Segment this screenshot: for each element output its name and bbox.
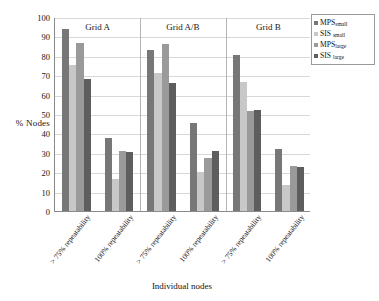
panel-divider: [226, 18, 227, 211]
y-tick-label: 60: [24, 92, 50, 101]
plot-area: Grid AGrid A/BGrid B: [54, 18, 310, 212]
legend-swatch: [314, 32, 318, 36]
bar-chart: % Nodes 1009080706050403020100 Grid AGri…: [0, 0, 379, 301]
gridline: [55, 173, 310, 174]
y-tick-label: 0: [24, 208, 50, 217]
gridline: [55, 96, 310, 97]
bar: [169, 83, 176, 211]
bar: [240, 82, 247, 211]
gridline: [55, 76, 310, 77]
panel-label: Grid B: [226, 22, 311, 32]
panel-divider: [140, 18, 141, 211]
legend-label: MPSlarge: [320, 40, 346, 50]
gridline: [55, 37, 310, 38]
y-tick-label: 40: [24, 130, 50, 139]
bar: [62, 29, 69, 211]
bar: [212, 151, 219, 211]
x-tick-label: > 75% repeatability: [219, 213, 263, 266]
gridline: [55, 115, 310, 116]
y-tick-label: 30: [24, 150, 50, 159]
bar: [126, 152, 133, 211]
bar: [204, 158, 211, 211]
legend-item: SIS large: [314, 50, 372, 61]
x-tick-label: 100% repeatability: [93, 213, 136, 264]
bar: [84, 79, 91, 211]
gridline: [55, 134, 310, 135]
bar: [290, 166, 297, 211]
bar: [247, 111, 254, 211]
legend-swatch: [314, 54, 318, 58]
bar: [275, 149, 282, 211]
legend-swatch: [314, 43, 318, 47]
gridline: [55, 57, 310, 58]
y-tick-label: 10: [24, 189, 50, 198]
y-tick-label: 100: [24, 14, 50, 23]
x-axis-tick-labels: > 75% repeatability100% repeatability> 7…: [54, 213, 310, 275]
gridline: [55, 193, 310, 194]
y-tick-label: 20: [24, 169, 50, 178]
y-tick-label: 80: [24, 53, 50, 62]
y-tick-label: 90: [24, 33, 50, 42]
bar: [154, 73, 161, 211]
bar: [197, 172, 204, 211]
legend-item: MPSsmall: [314, 17, 372, 28]
x-tick-label: 100% repeatability: [178, 213, 221, 264]
panel-label: Grid A/B: [140, 22, 225, 32]
gridline: [55, 154, 310, 155]
legend: MPSsmallSIS smallMPSlargeSIS large: [311, 14, 375, 65]
bar: [76, 43, 83, 211]
legend-label: SIS small: [320, 29, 345, 39]
y-axis-tick-labels: 1009080706050403020100: [24, 18, 50, 212]
bar: [233, 55, 240, 211]
y-tick-label: 50: [24, 111, 50, 120]
x-tick-label: > 75% repeatability: [48, 213, 92, 266]
bar: [119, 151, 126, 211]
legend-label: MPSsmall: [320, 18, 347, 28]
bar: [297, 167, 304, 211]
gridline: [55, 18, 310, 19]
bar: [162, 44, 169, 211]
bar: [190, 123, 197, 211]
y-tick-label: 70: [24, 72, 50, 81]
legend-label: SIS large: [320, 51, 344, 61]
legend-swatch: [314, 21, 318, 25]
bar: [105, 138, 112, 211]
bar: [112, 179, 119, 211]
bar: [147, 50, 154, 211]
legend-item: MPSlarge: [314, 39, 372, 50]
bar: [69, 65, 76, 211]
x-tick-label: > 75% repeatability: [134, 213, 178, 266]
bar: [254, 110, 261, 211]
bar: [282, 185, 289, 211]
legend-item: SIS small: [314, 28, 372, 39]
x-axis-title: Individual nodes: [54, 281, 310, 291]
x-tick-label: 100% repeatability: [263, 213, 306, 264]
